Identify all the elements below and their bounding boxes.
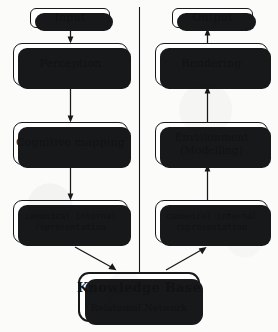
node-canonical-internal-representation-left[interactable]: canonical internal representation [13,200,128,243]
node-input-label: Input [55,12,86,25]
node-envisionment[interactable]: Envisionment (Modelling) [155,122,268,165]
node-knowledge-base[interactable]: Knowledge Base Relational Network [78,272,200,322]
node-canonical-right-label-line1: canonical internal [166,211,257,221]
diagram-canvas: Input Perception Cognitive mapping canon… [0,0,278,332]
node-canonical-internal-representation-right[interactable]: canonical internal representation [155,200,268,243]
knowledge-base-title: Knowledge Base [77,281,201,295]
node-input[interactable]: Input [30,8,110,28]
node-rendering[interactable]: Rendering [155,43,268,86]
node-canonical-right-label-line2: representation [176,222,247,232]
node-perception-label: Perception [39,58,101,71]
node-canonical-left-label-line1: canonical internal [25,211,116,221]
node-perception[interactable]: Perception [13,43,128,86]
node-output-label: Output [192,12,232,25]
node-cognitive-mapping[interactable]: Cognitive mapping [13,122,128,165]
knowledge-base-subtitle: Relational Network [91,302,188,313]
node-envisionment-label-line1: Envisionment [175,131,249,143]
node-envisionment-label-line2: (Modelling) [180,144,243,156]
node-canonical-left-label-line2: representation [35,222,106,232]
arrowhead-knowledge-base-to-canonical-right [199,247,207,254]
node-cognitive-mapping-label: Cognitive mapping [16,137,125,150]
wire-canonical-left-to-knowledge-base [75,247,113,268]
arrowhead-canonical-left-to-knowledge-base [108,263,116,270]
node-rendering-label: Rendering [181,58,241,71]
node-output[interactable]: Output [172,8,253,28]
wire-knowledge-base-to-canonical-right [166,249,203,270]
